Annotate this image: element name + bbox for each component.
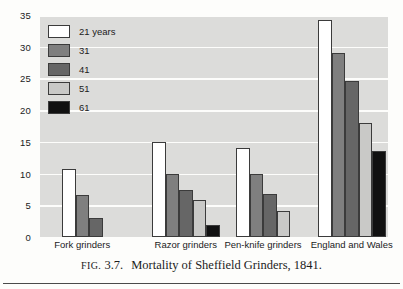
bar (179, 190, 193, 237)
y-axis-tick-label: 20 (20, 105, 31, 116)
legend-swatch-icon (48, 63, 70, 76)
x-axis: Fork grindersRazor grindersPen-knife gri… (40, 239, 388, 253)
y-axis: 05101520253035 (0, 15, 36, 237)
y-axis-tick-label: 15 (20, 136, 31, 147)
y-axis-tick-label: 0 (26, 232, 31, 243)
legend-item-label: 21 years (79, 26, 115, 37)
bar (332, 53, 346, 237)
bar (372, 151, 386, 237)
legend-swatch-icon (48, 25, 70, 38)
bar (345, 81, 359, 237)
legend-item: 41 (48, 60, 158, 79)
caption-title: Mortality of Sheffield Grinders, 1841. (131, 258, 322, 272)
bar (236, 148, 250, 237)
legend-item-label: 61 (79, 102, 90, 113)
legend-swatch-icon (48, 82, 70, 95)
legend-item-label: 31 (79, 45, 90, 56)
bar (76, 195, 90, 237)
legend-item-label: 51 (79, 83, 90, 94)
caption-fig-label: FIG. (81, 260, 101, 271)
figure-caption: FIG. 3.7. Mortality of Sheffield Grinder… (0, 258, 403, 273)
x-axis-tick-label: Pen-knife grinders (224, 239, 301, 250)
bar (250, 174, 264, 237)
figure-mortality-sheffield-grinders: 05101520253035 Fork grindersRazor grinde… (0, 0, 403, 289)
y-axis-tick-label: 25 (20, 73, 31, 84)
caption-divider (3, 283, 400, 284)
y-axis-tick-label: 5 (26, 200, 31, 211)
legend-swatch-icon (48, 44, 70, 57)
legend-item-label: 41 (79, 64, 90, 75)
legend-item: 51 (48, 79, 158, 98)
x-axis-tick-label: Razor grinders (155, 239, 217, 250)
bar (193, 200, 207, 237)
bar (152, 142, 166, 237)
legend-item: 21 years (48, 22, 158, 41)
y-axis-tick-label: 35 (20, 10, 31, 21)
bar (89, 218, 103, 237)
bar (318, 20, 332, 237)
x-axis-tick-label: England and Wales (311, 239, 393, 250)
caption-fig-number: 3.7. (104, 258, 123, 272)
bar (277, 211, 291, 237)
legend-item: 61 (48, 98, 158, 117)
bar (263, 194, 277, 237)
legend-item: 31 (48, 41, 158, 60)
legend-swatch-icon (48, 101, 70, 114)
bar (359, 123, 373, 237)
chart-legend: 21 years31415161 (48, 22, 158, 117)
bar (62, 169, 76, 237)
y-axis-tick-label: 30 (20, 41, 31, 52)
bar (166, 174, 180, 237)
x-axis-tick-label: Fork grinders (54, 239, 110, 250)
y-axis-tick-label: 10 (20, 168, 31, 179)
bar (206, 225, 220, 237)
